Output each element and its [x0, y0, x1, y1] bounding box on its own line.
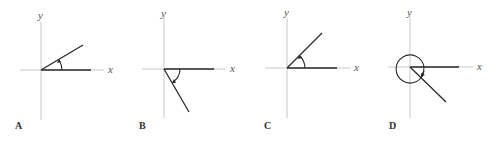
panel-a: x y A: [15, 9, 113, 131]
x-axis-label: x: [476, 60, 482, 72]
panel-b: x y B: [139, 7, 235, 131]
y-axis-label: y: [37, 9, 43, 21]
panel-c: x y C: [264, 6, 359, 131]
terminal-side: [410, 67, 446, 102]
panel-label: C: [264, 120, 271, 131]
panel-d: x y D: [388, 6, 482, 131]
y-axis-label: y: [406, 6, 412, 18]
terminal-side: [164, 69, 189, 112]
panel-label: B: [139, 120, 146, 131]
panel-label: D: [389, 120, 396, 131]
x-axis-label: x: [353, 61, 359, 73]
x-axis-label: x: [229, 62, 235, 74]
angle-diagrams: x y A x y B x y C x y D: [0, 0, 501, 141]
panel-label: A: [15, 120, 23, 131]
x-axis-label: x: [107, 63, 113, 75]
y-axis-label: y: [283, 6, 289, 18]
y-axis-label: y: [160, 7, 166, 19]
